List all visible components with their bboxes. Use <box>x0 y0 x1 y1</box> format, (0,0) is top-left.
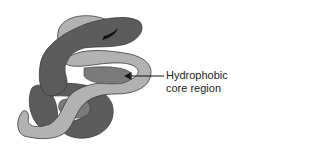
hydrophobic-core-label: Hydrophobic core region <box>166 69 228 95</box>
hydrophobic-core <box>84 67 132 84</box>
label-line-1: Hydrophobic <box>166 69 228 82</box>
label-line-2: core region <box>166 82 228 95</box>
